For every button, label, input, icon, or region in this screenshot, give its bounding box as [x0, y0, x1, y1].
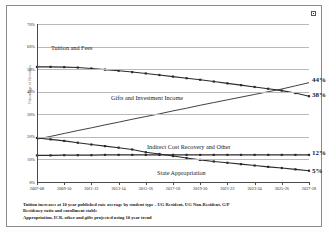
x-axis-tick-mark [64, 182, 65, 185]
series-label-tuition: Tuition and Fees [51, 44, 92, 51]
footnotes: Tuition increases at 10 year published r… [23, 202, 323, 221]
x-axis-tick-label: 2025-26 [275, 186, 289, 191]
series-marker [77, 142, 79, 144]
series-marker [145, 154, 147, 156]
series-marker [226, 82, 228, 84]
series-marker [50, 138, 52, 140]
x-axis-tick-mark [255, 182, 256, 185]
y-axis-tick-label: 20% [27, 134, 35, 139]
series-marker [172, 75, 174, 77]
y-axis-tick-label: 40% [27, 89, 35, 94]
x-axis-tick-label: 2023-24 [247, 186, 261, 191]
series-marker [199, 79, 201, 81]
series-marker [118, 147, 120, 149]
x-axis-tick-label: 2021-22 [220, 186, 234, 191]
x-axis-tick-mark [282, 182, 283, 185]
series-marker [145, 151, 147, 153]
y-axis-tick-label: 30% [27, 112, 35, 117]
series-marker [172, 155, 174, 157]
series-marker [240, 154, 242, 156]
series-label-state-appropriation: State Appropriation [157, 169, 206, 176]
series-marker [186, 154, 188, 156]
chart-page: Percentage of Revenues 70%60%50%40%30%20… [0, 0, 329, 233]
series-marker [50, 66, 52, 68]
series-marker [240, 163, 242, 165]
y-axis-tick-label: 0% [29, 180, 35, 185]
end-label-gifts: 44% [312, 76, 326, 84]
series-marker [308, 95, 310, 97]
series-marker [254, 86, 256, 88]
series-marker [254, 154, 256, 156]
gridline [37, 69, 309, 70]
gridline [37, 159, 309, 160]
series-marker [254, 164, 256, 166]
x-axis-tick-mark [173, 182, 174, 185]
y-axis-tick-label: 10% [27, 157, 35, 162]
series-marker [186, 77, 188, 79]
series-marker [308, 154, 310, 156]
series-marker [213, 154, 215, 156]
series-marker [294, 168, 296, 170]
x-axis-tick-label: 2027-28 [302, 186, 316, 191]
series-marker [145, 72, 147, 74]
series-marker [118, 154, 120, 156]
x-axis-tick-mark [37, 182, 38, 185]
series-marker [226, 154, 228, 156]
end-label-icr: 12% [312, 149, 326, 157]
series-marker [281, 167, 283, 169]
series-marker [213, 160, 215, 162]
series-marker [90, 154, 92, 156]
series-marker [77, 154, 79, 156]
series-marker [213, 80, 215, 82]
resize-handle-icon[interactable] [311, 11, 316, 16]
series-marker [281, 154, 283, 156]
gridline [37, 137, 309, 138]
y-axis-tick-label: 60% [27, 44, 35, 49]
x-axis-tick-label: 2019-20 [193, 186, 207, 191]
series-marker [63, 154, 65, 156]
series-marker [267, 166, 269, 168]
y-axis-tick-label: 70% [27, 22, 35, 27]
series-marker [63, 66, 65, 68]
x-axis-tick-label: 2015-16 [139, 186, 153, 191]
footnote-line-3: Appropriation, ICR, other and gifts proj… [23, 215, 323, 221]
x-axis-tick-mark [146, 182, 147, 185]
x-axis-tick-label: 2011-12 [84, 186, 98, 191]
y-axis-ticks: 70%60%50%40%30%20%10%0% [17, 6, 35, 206]
x-axis-tick-mark [200, 182, 201, 185]
series-marker [131, 71, 133, 73]
x-axis-tick-label: 2009-10 [57, 186, 71, 191]
series-label-icr: Indirect Cost Recovery and Other [147, 143, 231, 150]
end-label-tuition: 38% [312, 91, 326, 99]
series-marker [158, 74, 160, 76]
x-axis-tick-label: 2017-18 [166, 186, 180, 191]
series-marker [240, 84, 242, 86]
end-label-state-appropriation: 5% [312, 167, 323, 175]
y-axis-line [37, 24, 38, 183]
series-marker [294, 154, 296, 156]
series-marker [90, 143, 92, 145]
series-marker [199, 154, 201, 156]
x-axis-tick-mark [91, 182, 92, 185]
series-marker [104, 145, 106, 147]
series-label-gifts: Gifts and Investment Income [111, 94, 183, 101]
y-axis-tick-label: 50% [27, 67, 35, 72]
series-marker [267, 88, 269, 90]
chart-frame: Percentage of Revenues 70%60%50%40%30%20… [6, 5, 322, 227]
series-marker [226, 162, 228, 164]
gridline [37, 92, 309, 93]
series-marker [158, 153, 160, 155]
series-marker [104, 154, 106, 156]
x-axis-tick-mark [309, 182, 310, 185]
series-marker [267, 154, 269, 156]
x-axis-tick-mark [227, 182, 228, 185]
series-marker [131, 154, 133, 156]
gridline [37, 24, 309, 25]
gridline [37, 114, 309, 115]
series-marker [63, 140, 65, 142]
series-marker [308, 170, 310, 172]
series-marker [50, 154, 52, 156]
x-axis-tick-label: 2013-14 [111, 186, 125, 191]
x-axis-tick-mark [119, 182, 120, 185]
x-axis-tick-label: 2007-08 [30, 186, 44, 191]
